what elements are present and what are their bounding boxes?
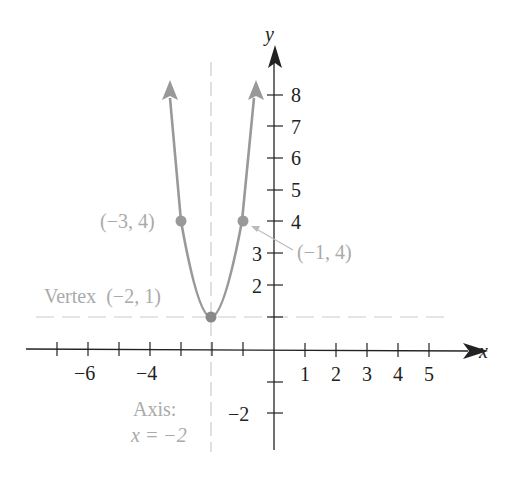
y-tick-neg2: −2	[228, 404, 249, 424]
point-right	[238, 216, 249, 227]
y-axis-arrow-icon	[268, 45, 282, 68]
x-tick-4: 4	[393, 364, 403, 384]
x-axis	[26, 349, 468, 351]
x-tick-neg6: −6	[74, 363, 95, 383]
x-tick-1: 1	[300, 364, 310, 384]
axis-label-line1: Axis:	[133, 399, 176, 419]
x-tick-neg4: −4	[136, 363, 157, 383]
left-arrow-icon	[162, 80, 178, 100]
y-tick-8: 8	[291, 85, 301, 105]
point-left	[176, 216, 187, 227]
y-tick-6: 6	[291, 148, 301, 168]
y-tick-5: 5	[291, 180, 301, 200]
y-tick-7: 7	[291, 117, 301, 137]
y-tick-2: 2	[252, 276, 262, 296]
vertex-label: Vertex (−2, 1)	[44, 286, 161, 306]
x-tick-5: 5	[424, 364, 434, 384]
y-ticks	[267, 95, 283, 413]
x-tick-2: 2	[331, 364, 341, 384]
y-tick-3: 3	[252, 244, 262, 264]
y-tick-4: 4	[291, 212, 301, 232]
axis-label-line2: x = −2	[131, 425, 187, 445]
chart-canvas	[0, 0, 520, 481]
point-left-label: (−3, 4)	[100, 211, 155, 231]
point-right-label: (−1, 4)	[297, 242, 352, 262]
x-axis-label: x	[479, 341, 488, 361]
vertex-point	[206, 312, 217, 323]
y-axis-label: y	[265, 24, 274, 44]
parabola-curve	[170, 98, 254, 317]
right-arrow-icon	[248, 80, 264, 100]
x-tick-3: 3	[362, 364, 372, 384]
leader-arrow-icon	[251, 226, 260, 232]
